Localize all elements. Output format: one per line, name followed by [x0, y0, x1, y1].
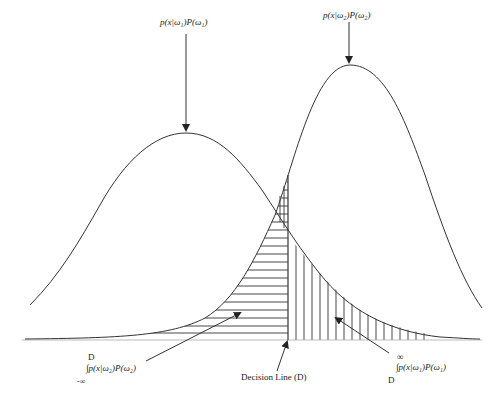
- curve-omega2: [25, 65, 482, 339]
- right-integral-upper: ∞: [397, 352, 403, 362]
- hatch-vertical-region: [296, 220, 424, 340]
- left-integral-lower: -∞: [77, 377, 85, 387]
- left-integral-upper: D: [88, 352, 95, 362]
- arrow-left-integral: [146, 313, 240, 361]
- curve-omega1: [30, 133, 480, 339]
- left-integral-expression: ∫p(x|ω₂)P(ω₂): [86, 363, 136, 373]
- curve1-label: p(x|ω₁)P(ω₁): [160, 17, 207, 27]
- decision-line-label: Decision Line (D): [241, 372, 306, 382]
- right-integral-lower: D: [388, 375, 395, 385]
- diagram-canvas: p(x|ω₁)P(ω₁) p(x|ω₂)P(ω₂) D ∫p(x|ω₂)P(ω₂…: [0, 0, 497, 396]
- curve2-label: p(x|ω₂)P(ω₂): [323, 10, 370, 20]
- diagram-svg: [0, 0, 497, 396]
- hatch-horizontal-region: [150, 182, 290, 333]
- arrow-decision-line: [277, 342, 287, 371]
- right-integral-expression: ∫p(x|ω₁)P(ω₁): [396, 362, 446, 372]
